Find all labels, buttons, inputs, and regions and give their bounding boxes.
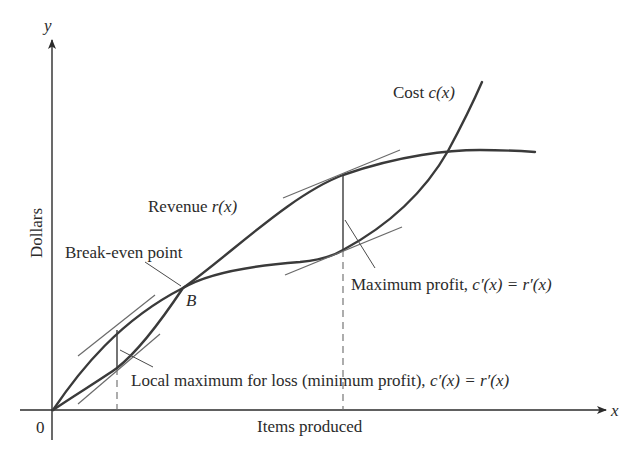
max-profit-label: Maximum profit, c′(x) = r′(x): [351, 275, 552, 294]
max-profit-leader: [345, 220, 375, 268]
revenue-label: Revenue r(x): [148, 197, 238, 216]
x-axis-var: x: [610, 401, 619, 420]
x-axis-title: Items produced: [257, 417, 363, 436]
cost-label: Cost c(x): [393, 83, 455, 102]
y-axis-var: y: [42, 16, 52, 35]
y-axis-title: Dollars: [27, 208, 46, 258]
break-even-label: Break-even point: [65, 243, 183, 262]
cost-revenue-diagram: y x 0 Items produced Dollars Revenue r(x…: [0, 0, 635, 465]
origin-label: 0: [36, 418, 45, 437]
revenue-tangent-max: [283, 150, 400, 198]
local-max-loss-label: Local maximum for loss (minimum profit),…: [131, 371, 510, 390]
break-even-point-label: B: [186, 291, 197, 310]
break-even-leader: [145, 262, 181, 286]
cost-tangent-local: [78, 334, 160, 404]
